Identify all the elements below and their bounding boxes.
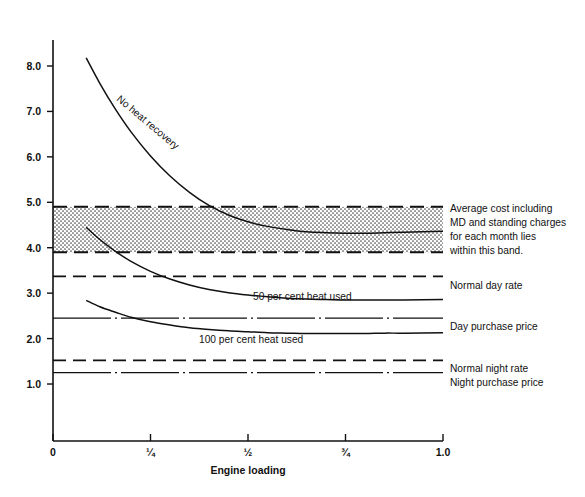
band-annotation-line-3: for each month lies (450, 231, 536, 242)
band-annotation-line-2: MD and standing charges (450, 217, 566, 228)
x-axis-tick-label-0: 0 (50, 446, 56, 458)
curve-label-100-per-cent-heat-used: 100 per cent heat used (199, 334, 304, 345)
curve-label-50-per-cent-heat-used: 50 per cent heat used (253, 291, 352, 302)
x-axis-tick-label-4: 1.0 (436, 446, 451, 458)
average-cost-band (53, 207, 443, 252)
y-axis-tick-label-7: 8.0 (26, 60, 41, 72)
y-axis-tick-label-1: 2.0 (26, 333, 41, 345)
x-axis-tick-label-2: ½ (244, 446, 253, 458)
x-axis-tick-label-3: ¾ (341, 446, 351, 458)
chart-canvas: 1.02.03.04.05.06.07.08.0 0¼½¾1.0 Engine … (0, 0, 585, 497)
annotation-normal-day-rate: Normal day rate (450, 280, 523, 291)
y-axis-tick-label-2: 3.0 (26, 287, 41, 299)
annotation-day-purchase-price: Day purchase price (450, 321, 538, 332)
engine-loading-cost-chart: 1.02.03.04.05.06.07.08.0 0¼½¾1.0 Engine … (0, 0, 585, 497)
y-axis-tick-label-4: 5.0 (26, 196, 41, 208)
annotation-normal-night-rate: Normal night rate (450, 363, 528, 374)
y-axis-tick-label-0: 1.0 (26, 378, 41, 390)
y-axis-tick-label-3: 4.0 (26, 242, 41, 254)
band-annotation-line-1: Average cost including (450, 203, 553, 214)
y-axis-tick-label-6: 7.0 (26, 105, 41, 117)
y-axis-tick-label-5: 6.0 (26, 151, 41, 163)
x-axis-title: Engine loading (210, 464, 285, 476)
band-annotation-line-4: within this band. (449, 245, 523, 256)
annotation-night-purchase-price: Night purchase price (450, 377, 544, 388)
x-axis-tick-label-1: ¼ (146, 446, 156, 458)
